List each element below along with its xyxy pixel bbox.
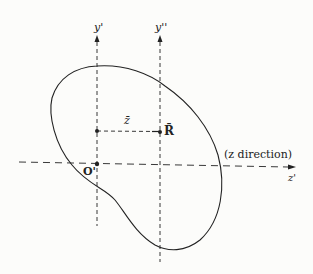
y-prime-label: y' xyxy=(94,21,103,34)
y-double-prime-label: y'' xyxy=(155,21,167,34)
z-prime-axis xyxy=(19,162,288,167)
z-prime-arrow-icon xyxy=(288,165,296,170)
z-bar-segment xyxy=(97,131,158,132)
y-prime-arrow-icon xyxy=(95,35,100,42)
diagram-drawing xyxy=(0,0,313,274)
origin-label: O' xyxy=(83,165,96,178)
diagram-canvas: y' y'' z̄ R̄ O' (z direction) z' xyxy=(0,0,313,274)
R-point xyxy=(158,130,162,134)
body-outline xyxy=(51,66,222,250)
centroid-point xyxy=(95,129,99,133)
direction-label: (z direction) xyxy=(224,148,292,161)
y-double-prime-arrow-icon xyxy=(158,35,163,42)
z-bar-label: z̄ xyxy=(124,114,130,127)
R-bar-label: R̄ xyxy=(164,124,174,138)
z-prime-label: z' xyxy=(288,172,296,183)
